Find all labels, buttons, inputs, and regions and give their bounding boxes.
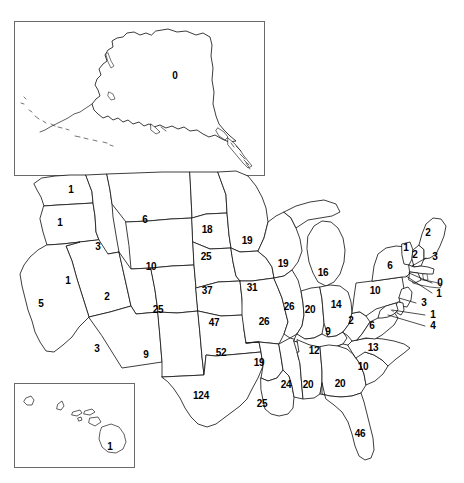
state-value-TN: 12 — [309, 346, 320, 356]
state-value-WV: 2 — [348, 316, 353, 326]
state-value-IN: 20 — [305, 305, 316, 315]
state-value-MI: 16 — [318, 268, 329, 278]
state-value-LA: 25 — [257, 399, 268, 409]
state-shape-WA — [34, 175, 93, 206]
state-value-VT: 1 — [403, 243, 408, 253]
state-value-VA: 6 — [369, 321, 374, 331]
state-value-AL: 20 — [303, 380, 314, 390]
state-value-NE: 37 — [202, 286, 213, 296]
state-value-UT: 2 — [104, 292, 109, 302]
state-value-ND: 18 — [202, 225, 213, 235]
state-value-MT: 6 — [142, 215, 147, 225]
state-value-WI: 19 — [278, 259, 289, 269]
state-shape-AZ — [89, 306, 162, 368]
state-value-MO: 26 — [259, 317, 270, 327]
state-value-NY: 6 — [387, 261, 392, 271]
state-value-MN: 19 — [242, 236, 253, 246]
state-value-CO: 25 — [153, 305, 164, 315]
state-value-SC: 10 — [358, 362, 369, 372]
state-shape-OR — [40, 203, 99, 245]
state-value-PA: 10 — [370, 286, 381, 296]
state-shape-MT — [107, 172, 192, 222]
state-value-AR: 19 — [254, 358, 265, 368]
state-value-FL: 46 — [355, 429, 366, 439]
state-value-IL: 26 — [284, 302, 295, 312]
state-value-GA: 20 — [335, 379, 346, 389]
state-value-WA: 1 — [68, 185, 73, 195]
state-shape-NM — [158, 311, 204, 377]
state-value-HI: 1 — [107, 442, 112, 452]
state-value-NV: 1 — [65, 276, 70, 286]
state-value-CT: 1 — [436, 289, 441, 299]
state-value-MS: 24 — [281, 380, 292, 390]
map-outlines — [0, 0, 464, 483]
state-value-RI: 0 — [437, 278, 442, 288]
state-value-NJ: 3 — [421, 298, 426, 308]
state-value-TX: 124 — [193, 391, 209, 401]
us-map-figure: 0111361051239251825374752124193126192519… — [0, 0, 464, 483]
state-value-OH: 14 — [331, 300, 342, 310]
state-value-KS: 47 — [209, 318, 220, 328]
state-value-NM: 9 — [143, 350, 148, 360]
state-shape-WY — [126, 218, 194, 269]
state-value-IA: 31 — [247, 283, 258, 293]
state-value-AK: 0 — [172, 71, 177, 81]
state-value-AZ: 3 — [94, 344, 99, 354]
state-value-MD: 4 — [430, 321, 435, 331]
state-value-WY: 10 — [146, 262, 157, 272]
state-value-ID: 3 — [95, 242, 100, 252]
state-value-NC: 13 — [368, 343, 379, 353]
state-value-OR: 1 — [57, 218, 62, 228]
state-value-CA: 5 — [38, 299, 43, 309]
state-value-SD: 25 — [201, 252, 212, 262]
state-value-OK: 52 — [216, 348, 227, 358]
state-value-MA: 3 — [432, 252, 437, 262]
state-value-DE: 1 — [430, 310, 435, 320]
state-shape-AK-peninsula — [40, 104, 92, 132]
state-value-ME: 2 — [425, 228, 430, 238]
state-shape-AK — [92, 29, 236, 142]
state-value-KY: 9 — [325, 327, 330, 337]
state-value-NH: 2 — [412, 250, 417, 260]
